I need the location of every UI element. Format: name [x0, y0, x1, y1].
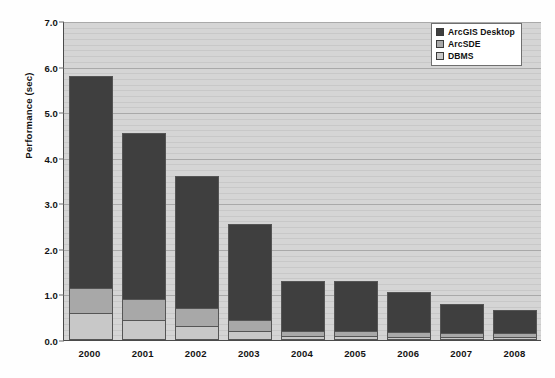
bar-slot: [276, 22, 329, 340]
y-axis-tick-mark: [59, 67, 64, 68]
legend-label: ArcSDE: [448, 39, 481, 49]
y-axis-tick-label: 1.0: [32, 290, 58, 301]
x-axis-tick-label: 2001: [116, 348, 169, 359]
x-axis-tick-labels: 200020012002200320042005200620072008: [63, 348, 541, 359]
bar-group: [64, 22, 541, 340]
bar-segment[interactable]: [122, 320, 166, 341]
y-axis-tick-label: 0.0: [32, 336, 58, 347]
bar-segment[interactable]: [334, 281, 378, 331]
x-axis-tick-label: 2004: [275, 348, 328, 359]
bar-segment[interactable]: [440, 304, 484, 334]
bar-segment[interactable]: [440, 337, 484, 340]
stacked-bar[interactable]: [281, 281, 325, 340]
bar-segment[interactable]: [228, 331, 272, 340]
bar-slot: [170, 22, 223, 340]
plot-area: [63, 22, 541, 341]
bar-segment[interactable]: [281, 336, 325, 340]
bar-segment[interactable]: [387, 292, 431, 332]
bar-slot: [382, 22, 435, 340]
legend-label: DBMS: [448, 51, 474, 61]
bar-slot: [329, 22, 382, 340]
y-axis-tick-mark: [59, 295, 64, 296]
y-axis-tick-mark: [59, 204, 64, 205]
stacked-bar[interactable]: [175, 176, 219, 340]
bar-slot: [64, 22, 117, 340]
bar-segment[interactable]: [175, 176, 219, 308]
legend-item[interactable]: DBMS: [436, 51, 515, 61]
bar-slot: [435, 22, 488, 340]
y-axis-tick-label: 2.0: [32, 244, 58, 255]
y-axis-tick-mark: [59, 113, 64, 114]
y-axis-tick-label: 4.0: [32, 153, 58, 164]
x-axis-tick-label: 2008: [488, 348, 541, 359]
x-axis-tick-label: 2000: [63, 348, 116, 359]
legend-item[interactable]: ArcGIS Desktop: [436, 27, 515, 37]
stacked-bar[interactable]: [493, 310, 537, 340]
y-axis-tick-label: 7.0: [32, 17, 58, 28]
bar-segment[interactable]: [122, 133, 166, 299]
bar-segment[interactable]: [175, 326, 219, 340]
legend-item[interactable]: ArcSDE: [436, 39, 515, 49]
y-axis-tick-labels: 7.06.05.04.03.02.01.00.0: [32, 22, 58, 341]
legend-label: ArcGIS Desktop: [448, 27, 515, 37]
x-axis-tick-label: 2005: [329, 348, 382, 359]
bar-segment[interactable]: [228, 320, 272, 331]
legend-swatch-icon: [436, 28, 444, 36]
stacked-bar[interactable]: [69, 76, 113, 340]
x-axis-tick-label: 2006: [382, 348, 435, 359]
bar-segment[interactable]: [69, 288, 113, 313]
bar-segment[interactable]: [493, 310, 537, 333]
y-axis-tick-mark: [59, 341, 64, 342]
bar-segment[interactable]: [69, 313, 113, 340]
chart-legend: ArcGIS DesktopArcSDEDBMS: [431, 23, 522, 66]
bar-segment[interactable]: [228, 224, 272, 320]
stacked-bar[interactable]: [440, 304, 484, 340]
bar-slot: [223, 22, 276, 340]
legend-swatch-icon: [436, 40, 444, 48]
y-axis-tick-mark: [59, 158, 64, 159]
stacked-bar[interactable]: [228, 224, 272, 340]
bar-slot: [488, 22, 541, 340]
stacked-bar[interactable]: [387, 292, 431, 340]
bar-segment[interactable]: [334, 336, 378, 340]
bar-segment[interactable]: [387, 337, 431, 340]
bar-segment[interactable]: [493, 337, 537, 340]
bar-segment[interactable]: [175, 308, 219, 326]
y-axis-tick-label: 3.0: [32, 199, 58, 210]
bar-segment[interactable]: [281, 281, 325, 331]
y-axis-tick-label: 5.0: [32, 108, 58, 119]
stacked-bar-chart: Performance (sec) 7.06.05.04.03.02.01.00…: [0, 0, 555, 378]
y-axis-tick-label: 6.0: [32, 62, 58, 73]
stacked-bar[interactable]: [122, 133, 166, 340]
bar-segment[interactable]: [122, 299, 166, 320]
x-axis-tick-label: 2002: [169, 348, 222, 359]
x-axis-tick-label: 2007: [435, 348, 488, 359]
y-axis-tick-mark: [59, 22, 64, 23]
stacked-bar[interactable]: [334, 281, 378, 340]
legend-swatch-icon: [436, 52, 444, 60]
y-axis-tick-mark: [59, 249, 64, 250]
x-axis-tick-label: 2003: [222, 348, 275, 359]
bar-slot: [117, 22, 170, 340]
bar-segment[interactable]: [69, 76, 113, 288]
